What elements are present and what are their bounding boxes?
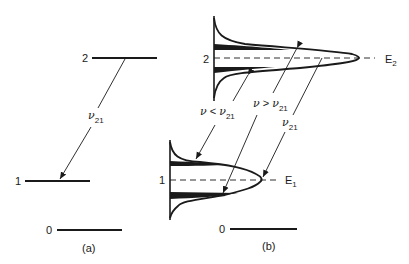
- panel-a-caption: (a): [82, 242, 95, 254]
- transition-arrow-center-lower: [263, 132, 285, 177]
- transition-arrow-lt-upper: [233, 75, 248, 101]
- level-0-label-a: 0: [46, 224, 52, 236]
- transition-label-a: ν21: [88, 109, 104, 125]
- transition-label-gt: ν > ν21: [253, 97, 288, 113]
- panel-b-caption: (b): [262, 240, 275, 252]
- broadened-level-2: 2 E2: [203, 16, 397, 101]
- level-2-label-a: 2: [82, 52, 88, 64]
- energy-label-e2: E2: [385, 53, 397, 68]
- energy-label-e1: E1: [285, 174, 297, 189]
- transition-arrow-a: [60, 127, 91, 179]
- level-0-label-b: 0: [219, 223, 225, 235]
- energy-level-diagram: 2 1 0 ν21 (a) 2 E2: [0, 0, 409, 264]
- panel-b: 2 E2 1 E1 0 ν < ν21: [159, 16, 397, 252]
- transition-arrow-lt-lower: [196, 125, 215, 159]
- level-1-label-b: 1: [159, 174, 165, 186]
- transition-label-center: ν21: [282, 116, 298, 132]
- transition-arrow-gt-lower: [223, 115, 257, 193]
- level-2-label-b: 2: [203, 53, 209, 65]
- panel-a: 2 1 0 ν21 (a): [15, 52, 157, 254]
- transition-arrow-a-upper: [98, 59, 125, 108]
- broadened-level-1: 1 E1: [159, 140, 297, 220]
- level-1-label-a: 1: [15, 175, 21, 187]
- transition-label-lt: ν < ν21: [200, 105, 235, 121]
